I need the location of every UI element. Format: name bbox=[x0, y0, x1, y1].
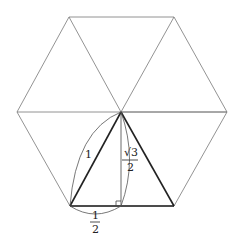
diagonal-upper-left bbox=[69, 17, 121, 112]
hypotenuse-label: 1 bbox=[85, 148, 92, 161]
height-label-numerator: √3 bbox=[124, 146, 138, 159]
triangle-right-side bbox=[121, 112, 174, 206]
hexagon-outline bbox=[17, 17, 227, 206]
base-label-numerator: 1 bbox=[92, 209, 99, 222]
diagonal-upper-right bbox=[121, 17, 174, 112]
hexagon-diagram: 1 √3 2 1 2 bbox=[0, 0, 241, 245]
height-label-denominator: 2 bbox=[127, 161, 134, 174]
triangle-left-side bbox=[70, 112, 121, 206]
base-label-denominator: 2 bbox=[92, 223, 99, 236]
